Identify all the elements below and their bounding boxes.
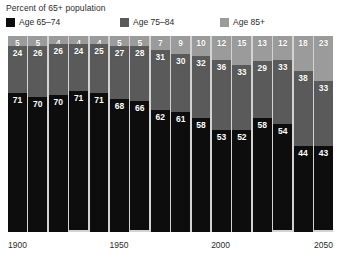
bar-1970[interactable]: 73162 — [151, 36, 170, 232]
bar-value-label: 28 — [135, 46, 144, 58]
bar-2020[interactable]: 132958 — [253, 36, 272, 232]
bar-segment-age-65-74-1940: 71 — [90, 93, 109, 232]
bar-1990[interactable]: 103258 — [192, 36, 211, 232]
legend-item-age-75-84: Age 75–84 — [120, 18, 174, 27]
bar-segment-age-85-plus-1980: 9 — [171, 36, 190, 54]
bar-segment-age-75-84-1960: 28 — [130, 46, 149, 101]
bar-1950[interactable]: 52768 — [110, 36, 129, 232]
bar-value-label: 12 — [278, 36, 287, 48]
bar-segment-age-65-74-1900: 71 — [8, 93, 27, 232]
bar-value-label: 58 — [258, 118, 267, 130]
bar-segment-age-85-plus-1960: 5 — [130, 36, 149, 46]
bar-value-label: 70 — [53, 95, 62, 107]
bar-segment-age-85-plus-2040: 18 — [294, 36, 313, 71]
bar-2030[interactable]: 123354 — [273, 36, 292, 232]
bar-segment-age-75-84-1980: 30 — [171, 54, 190, 113]
bar-2000[interactable]: 123653 — [212, 36, 231, 232]
bar-segment-age-65-74-1910: 70 — [28, 97, 47, 234]
bar-segment-age-65-74-1950: 68 — [110, 99, 129, 232]
bar-value-label: 10 — [196, 36, 205, 48]
bar-value-label: 24 — [13, 46, 22, 58]
bar-value-label: 33 — [278, 60, 287, 72]
x-axis-line — [8, 232, 333, 234]
bar-1940[interactable]: 42571 — [90, 36, 109, 232]
legend-swatch-icon-age-75-84 — [120, 18, 129, 27]
legend-label-age-75-84: Age 75–84 — [133, 18, 174, 27]
bar-segment-age-65-74-2040: 44 — [294, 146, 313, 232]
x-tick-label-2050: 2050 — [314, 240, 333, 250]
bar-value-label: 30 — [176, 54, 185, 66]
bar-segment-age-75-84-2000: 36 — [212, 60, 231, 131]
bar-segment-age-65-74-1980: 61 — [171, 112, 190, 232]
bar-segment-age-65-74-1990: 58 — [192, 118, 211, 232]
bar-value-label: 5 — [35, 36, 40, 46]
bar-value-label: 33 — [237, 65, 246, 77]
legend-label-age-65-74: Age 65–74 — [19, 18, 60, 27]
bar-value-label: 7 — [158, 36, 163, 48]
chart-title: Percent of 65+ population — [6, 3, 106, 13]
legend-item-age-65-74: Age 65–74 — [6, 18, 60, 27]
bar-2050[interactable]: 233343 — [314, 36, 333, 232]
bar-value-label: 5 — [137, 36, 142, 46]
bar-value-label: 12 — [217, 36, 226, 48]
bar-value-label: 4 — [76, 36, 81, 44]
bar-segment-age-85-plus-1910: 5 — [28, 36, 47, 46]
bar-segment-age-65-74-1970: 62 — [151, 110, 170, 232]
bar-value-label: 27 — [115, 46, 124, 58]
bar-segment-age-65-74-2050: 43 — [314, 146, 333, 230]
x-tick-label-1950: 1950 — [110, 240, 129, 250]
legend-label-age-85-plus: Age 85+ — [233, 18, 265, 27]
bar-segment-age-85-plus-2010: 15 — [232, 36, 251, 65]
bar-value-label: 29 — [258, 61, 267, 73]
bar-1930[interactable]: 42471 — [69, 36, 88, 232]
bar-segment-age-75-84-1930: 24 — [69, 44, 88, 91]
legend-item-age-85-plus: Age 85+ — [220, 18, 265, 27]
chart-legend: Age 65–74 Age 75–84 Age 85+ — [6, 18, 336, 32]
bar-value-label: 15 — [237, 36, 246, 48]
bar-value-label: 23 — [319, 36, 328, 48]
bar-segment-age-65-74-1960: 66 — [130, 101, 149, 230]
bar-value-label: 5 — [117, 36, 122, 46]
bar-segment-age-85-plus-2030: 12 — [273, 36, 292, 60]
bar-segment-age-75-84-2050: 33 — [314, 81, 333, 146]
bar-1980[interactable]: 93061 — [171, 36, 190, 232]
bar-segment-age-85-plus-1920: 4 — [49, 36, 68, 44]
bar-segment-age-85-plus-1950: 5 — [110, 36, 129, 46]
bar-segment-age-85-plus-1970: 7 — [151, 36, 170, 50]
bar-2040[interactable]: 183844 — [294, 36, 313, 232]
bar-segment-age-75-84-2020: 29 — [253, 61, 272, 118]
bar-segment-age-65-74-1920: 70 — [49, 95, 68, 232]
bar-segment-age-85-plus-2050: 23 — [314, 36, 333, 81]
bar-value-label: 31 — [156, 50, 165, 62]
bar-2010[interactable]: 153352 — [232, 36, 251, 232]
bar-value-label: 43 — [319, 146, 328, 158]
bar-segment-age-85-plus-2000: 12 — [212, 36, 231, 60]
bar-1960[interactable]: 52866 — [130, 36, 149, 232]
bar-value-label: 44 — [298, 146, 307, 158]
bar-1900[interactable]: 52471 — [8, 36, 27, 232]
bar-value-label: 25 — [94, 44, 103, 56]
bar-value-label: 71 — [13, 93, 22, 105]
bar-segment-age-65-74-2020: 58 — [253, 118, 272, 232]
bar-value-label: 26 — [33, 46, 42, 58]
bar-segment-age-75-84-2040: 38 — [294, 71, 313, 145]
legend-swatch-icon-age-65-74 — [6, 18, 15, 27]
bar-segment-age-85-plus-1930: 4 — [69, 36, 88, 44]
bar-1920[interactable]: 42670 — [49, 36, 68, 232]
bar-value-label: 52 — [237, 130, 246, 142]
stacked-bar-chart-figure: Percent of 65+ population Age 65–74 Age … — [0, 0, 341, 270]
bar-value-label: 62 — [156, 110, 165, 122]
bar-value-label: 9 — [178, 36, 183, 48]
bar-segment-age-65-74-2010: 52 — [232, 130, 251, 232]
bar-value-label: 66 — [135, 101, 144, 113]
bar-segment-age-75-84-1920: 26 — [49, 44, 68, 95]
x-tick-label-1900: 1900 — [8, 240, 27, 250]
bar-segment-age-85-plus-1940: 4 — [90, 36, 109, 44]
bar-segment-age-75-84-1910: 26 — [28, 46, 47, 97]
bar-segment-age-65-74-2030: 54 — [273, 124, 292, 230]
bar-1910[interactable]: 52670 — [28, 36, 47, 232]
bar-segment-age-65-74-2000: 53 — [212, 130, 231, 234]
bar-segment-age-85-plus-1900: 5 — [8, 36, 27, 46]
bar-value-label: 58 — [196, 118, 205, 130]
bar-segment-age-75-84-1900: 24 — [8, 46, 27, 93]
